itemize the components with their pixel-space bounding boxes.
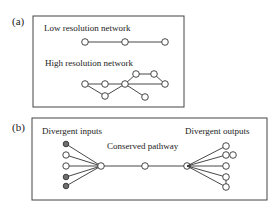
- panel-b: (b) Divergent inputs Conserved pathway D…: [12, 118, 267, 200]
- panel-a-label: (a): [12, 15, 25, 28]
- high-resolution-title: High resolution network: [45, 58, 133, 68]
- conserved-pathway-title: Conserved pathway: [107, 141, 179, 151]
- diagram-canvas: (a) Low resolution network High resoluti…: [0, 0, 276, 207]
- low-resolution-title: Low resolution network: [44, 23, 131, 33]
- conserved-pathway-network: [98, 163, 191, 170]
- divergent-outputs-title: Divergent outputs: [185, 126, 250, 136]
- high-resolution-network: [82, 71, 169, 101]
- divergent-outputs-network: [187, 143, 236, 191]
- panel-a: (a) Low resolution network High resoluti…: [12, 15, 184, 107]
- low-resolution-network: [82, 39, 169, 46]
- panel-b-label: (b): [12, 121, 25, 134]
- divergent-inputs-title: Divergent inputs: [42, 126, 103, 136]
- divergent-inputs-network: [63, 141, 101, 189]
